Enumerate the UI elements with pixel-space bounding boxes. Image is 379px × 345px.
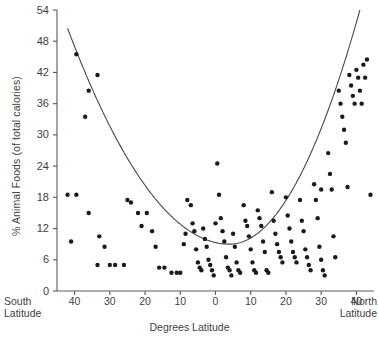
data-point [194,247,198,251]
data-point [317,245,321,249]
data-point [87,211,91,215]
data-point [233,245,237,249]
data-point [337,88,341,92]
data-point [222,239,226,243]
data-point [284,195,288,199]
data-point [139,224,143,228]
data-point [328,172,332,176]
plot-canvas [0,0,379,345]
data-point [277,250,281,254]
data-point [286,213,290,217]
data-point [259,224,263,228]
data-point [192,229,196,233]
data-point [199,268,203,272]
data-point [210,268,214,272]
data-point [263,250,267,254]
data-point [97,234,101,238]
data-point [213,221,217,225]
data-point [203,237,207,241]
data-point [308,268,312,272]
data-point [287,226,291,230]
data-point [321,268,325,272]
data-point [352,101,356,105]
data-point [249,247,253,251]
data-point [344,140,348,144]
data-point [212,273,216,277]
data-point [271,219,275,223]
data-point [293,255,297,259]
data-point [359,101,363,105]
data-point [95,263,99,267]
data-point [368,193,372,197]
data-point [338,101,342,105]
data-point [190,221,194,225]
data-point [162,265,166,269]
data-point [257,216,261,220]
data-point [314,198,318,202]
data-point [113,263,117,267]
data-point [150,229,154,233]
data-point [278,255,282,259]
data-point [206,258,210,262]
data-point [204,245,208,249]
data-point [322,273,326,277]
data-point [345,185,349,189]
data-point [298,198,302,202]
data-point [220,229,224,233]
data-point [365,57,369,61]
data-point [305,255,309,259]
data-point [185,198,189,202]
data-point [196,260,200,264]
scatter-chart-figure: % Animal Foods (of total calories) Degre… [0,0,379,345]
data-point [363,75,367,79]
data-point [243,219,247,223]
data-point [145,211,149,215]
data-point [136,211,140,215]
data-point [354,68,358,72]
data-point [303,247,307,251]
data-point [254,271,258,275]
data-point [247,234,251,238]
data-point [241,203,245,207]
data-point [69,239,73,243]
data-point [312,182,316,186]
data-point [330,187,334,191]
data-point [307,263,311,267]
data-point [201,226,205,230]
data-point [289,239,293,243]
data-point [122,263,126,267]
data-point [275,242,279,246]
data-point [256,208,260,212]
data-point [231,232,235,236]
data-point [169,271,173,275]
data-point [270,190,274,194]
data-point [326,151,330,155]
data-point [349,83,353,87]
data-point [351,94,355,98]
data-point [183,232,187,236]
data-point [315,216,319,220]
data-point [219,216,223,220]
data-point [65,193,69,197]
data-point [266,271,270,275]
data-point [261,239,265,243]
data-point [229,273,233,277]
data-point [227,268,231,272]
data-point [356,75,360,79]
data-point [217,193,221,197]
data-point [300,219,304,223]
data-point [319,187,323,191]
data-point [238,271,242,275]
data-point [291,250,295,254]
data-point [347,73,351,77]
data-point [250,260,254,264]
data-point [361,62,365,66]
data-point [157,265,161,269]
data-point [224,255,228,259]
data-point [245,224,249,228]
data-point [340,114,344,118]
data-point [108,263,112,267]
data-point [273,232,277,236]
data-point [319,258,323,262]
data-point [294,260,298,264]
